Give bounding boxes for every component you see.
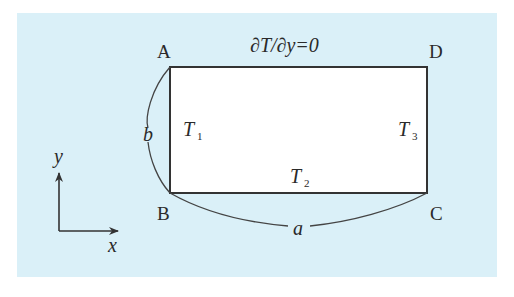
right-temperature-subscript: 3 xyxy=(412,130,418,142)
height-dimension-label: b xyxy=(143,123,153,145)
bottom-temperature-subscript: 2 xyxy=(304,177,310,189)
heat-conduction-diagram: A D B C ∂T/∂y=0 T 1 T 3 T 2 b a y x xyxy=(0,0,514,297)
x-axis-label: x xyxy=(107,234,117,256)
top-boundary-condition: ∂T/∂y=0 xyxy=(250,34,319,57)
dimension-b-arc xyxy=(147,67,170,128)
corner-label-a: A xyxy=(157,41,171,62)
corner-label-c: C xyxy=(430,203,443,224)
corner-label-b: B xyxy=(157,203,170,224)
dimension-a-arc-right xyxy=(310,193,427,226)
width-dimension-label: a xyxy=(293,217,303,239)
bottom-temperature-symbol: T xyxy=(290,165,303,187)
right-temperature-symbol: T xyxy=(398,118,411,140)
left-temperature-subscript: 1 xyxy=(197,130,203,142)
dimension-a-arc-left xyxy=(170,193,288,226)
dimension-b-arc-lower xyxy=(148,142,170,193)
left-temperature-symbol: T xyxy=(183,118,196,140)
y-axis-label: y xyxy=(52,145,63,168)
corner-label-d: D xyxy=(429,41,443,62)
